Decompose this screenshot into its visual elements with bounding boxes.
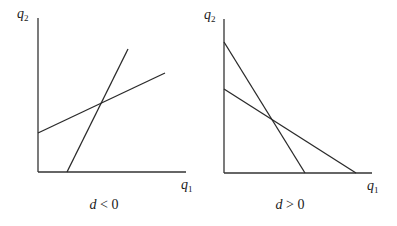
left-caption: d < 0 xyxy=(90,198,119,212)
right-shallow-downward-line xyxy=(224,89,356,173)
right-x-label-subscript: 1 xyxy=(374,185,379,195)
right-panel xyxy=(224,19,372,173)
left-caption-relation: < 0 xyxy=(97,197,119,212)
left-y-label-base: q xyxy=(17,6,24,21)
diagram-canvas xyxy=(0,0,397,226)
right-y-label-subscript: 2 xyxy=(211,14,216,24)
left-x-axis-label: q1 xyxy=(181,178,193,194)
right-caption: d > 0 xyxy=(276,198,305,212)
left-y-label-subscript: 2 xyxy=(24,13,29,23)
left-panel xyxy=(38,18,186,172)
left-caption-variable: d xyxy=(90,197,97,212)
right-y-axis-label: q2 xyxy=(204,8,216,24)
left-steep-upward-line xyxy=(67,49,128,172)
right-x-axis-label: q1 xyxy=(367,179,379,195)
right-x-label-base: q xyxy=(367,178,374,193)
left-x-label-subscript: 1 xyxy=(188,184,193,194)
right-steep-downward-line xyxy=(224,42,305,173)
left-x-label-base: q xyxy=(181,177,188,192)
right-y-label-base: q xyxy=(204,7,211,22)
left-shallow-upward-line xyxy=(38,73,165,133)
right-caption-variable: d xyxy=(276,197,283,212)
left-y-axis-label: q2 xyxy=(17,7,29,23)
right-caption-relation: > 0 xyxy=(283,197,305,212)
